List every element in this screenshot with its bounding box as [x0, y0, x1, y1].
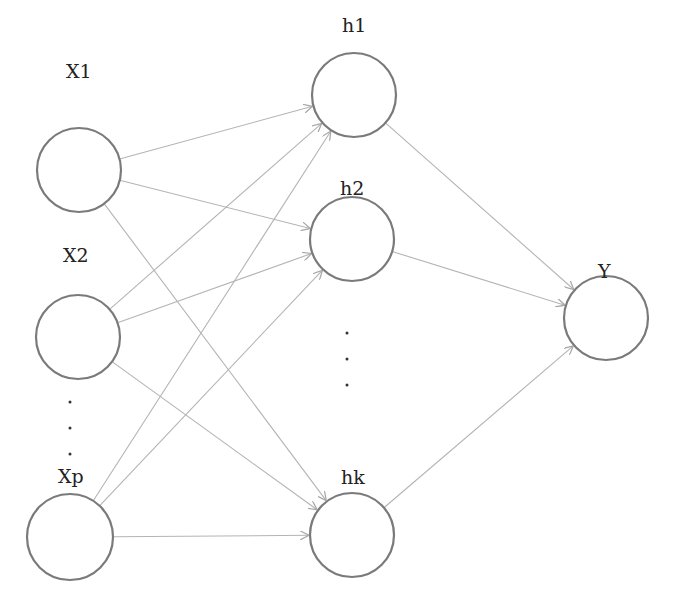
edge-x1-to-h1 [120, 106, 313, 159]
hidden-node-h1 [312, 53, 396, 137]
input-node-xp [27, 494, 113, 580]
input-ellipsis-dot [69, 453, 72, 456]
label-h1: h1 [342, 14, 366, 36]
label-x1: X1 [66, 60, 92, 82]
edge-xp-to-hk [113, 535, 309, 536]
edge-hk-to-y [384, 346, 573, 508]
label-hk: hk [341, 466, 365, 488]
label-y: Y [597, 260, 611, 282]
edge-x2-to-h1 [110, 123, 322, 309]
input-node-x1 [37, 128, 121, 212]
edge-x1-to-hk [104, 204, 326, 501]
input-ellipsis-dot [69, 427, 72, 430]
edge-h1-to-y [385, 123, 573, 290]
connections [93, 106, 574, 536]
label-h2: h2 [340, 177, 364, 199]
nodes [27, 53, 648, 580]
hidden-node-h2 [310, 197, 394, 281]
hidden-ellipsis-dot [346, 384, 349, 387]
neural-network-diagram: X1X2Xph1h2hkY [0, 0, 674, 604]
label-x2: X2 [63, 244, 89, 266]
hidden-ellipsis-dot [346, 332, 349, 335]
hidden-node-hk [310, 493, 394, 577]
edge-xp-to-h2 [100, 270, 323, 506]
output-node-y [564, 276, 648, 360]
edge-h2-to-y [392, 251, 565, 305]
input-node-x2 [36, 295, 120, 379]
label-xp: Xp [58, 465, 84, 487]
edge-xp-to-h1 [93, 131, 331, 501]
input-ellipsis-dot [69, 401, 72, 404]
hidden-ellipsis-dot [346, 358, 349, 361]
edge-x1-to-h2 [120, 180, 311, 228]
